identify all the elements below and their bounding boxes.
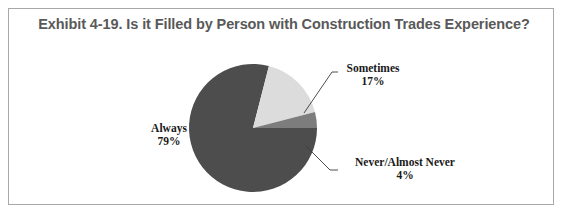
slice-label-always: Always 79%	[137, 122, 201, 148]
pie-chart	[0, 0, 568, 221]
slice-label-never: Never/Almost Never 4%	[337, 156, 473, 182]
slice-label-never-percent: 4%	[337, 169, 473, 182]
slice-label-always-percent: 79%	[137, 135, 201, 148]
slice-label-sometimes-name: Sometimes	[336, 62, 410, 75]
slice-label-sometimes: Sometimes 17%	[336, 62, 410, 88]
slice-label-never-name: Never/Almost Never	[337, 156, 473, 169]
slice-label-always-name: Always	[137, 122, 201, 135]
slice-label-sometimes-percent: 17%	[336, 75, 410, 88]
